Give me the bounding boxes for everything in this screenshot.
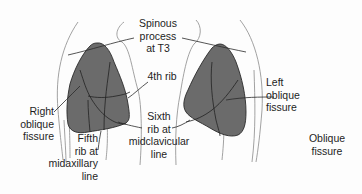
label-line: line: [124, 148, 194, 161]
label-line: Right: [12, 105, 54, 118]
lung-fissure-diagram: Spinous process at T3 4th rib Right obli…: [0, 0, 362, 194]
label-line: fissure: [303, 145, 351, 158]
label-line: Spinous: [134, 17, 182, 30]
label-line: midaxillary: [40, 157, 98, 170]
label-line: midclavicular: [124, 135, 194, 148]
label-spinous-process: Spinous process at T3: [134, 17, 182, 55]
label-fourth-rib: 4th rib: [142, 70, 182, 83]
label-line: rib at: [40, 145, 98, 158]
label-line: process: [134, 30, 182, 43]
label-line: oblique: [12, 118, 54, 131]
label-line: oblique: [266, 89, 316, 102]
label-line: Sixth: [124, 110, 194, 123]
label-line: Fifth: [40, 132, 98, 145]
label-line: at T3: [134, 42, 182, 55]
label-line: line: [40, 170, 98, 183]
label-line: rib at: [124, 123, 194, 136]
label-left-oblique-fissure: Left oblique fissure: [266, 76, 316, 114]
label-line: Oblique: [303, 132, 351, 145]
label-sixth-rib: Sixth rib at midclavicular line: [124, 110, 194, 160]
label-line: Left: [266, 76, 316, 89]
right-lung: [67, 43, 130, 133]
label-line: fissure: [266, 101, 316, 114]
label-line: 4th rib: [142, 70, 182, 83]
label-oblique-fissure: Oblique fissure: [303, 132, 351, 157]
label-fifth-rib: Fifth rib at midaxillary line: [40, 132, 98, 182]
